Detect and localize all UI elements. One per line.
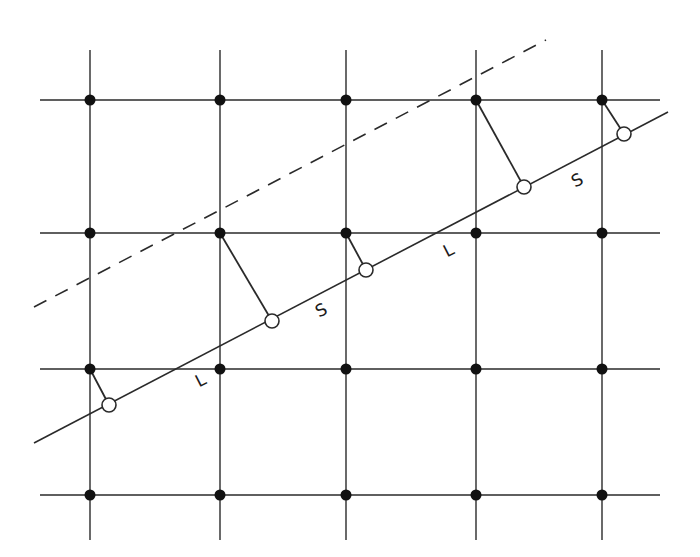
lattice-point [85, 95, 96, 106]
grid-lines [40, 50, 660, 540]
lattice-point [85, 228, 96, 239]
lattice-point [85, 364, 96, 375]
projected-point [102, 398, 116, 412]
lattice-point [597, 364, 608, 375]
lattice-point [215, 490, 226, 501]
projected-point [265, 314, 279, 328]
lattice-point [85, 490, 96, 501]
lattice-point [597, 95, 608, 106]
lattice-point [215, 95, 226, 106]
lattice-point [471, 490, 482, 501]
lattice-point [341, 95, 352, 106]
lattice-point [471, 228, 482, 239]
projected-point [359, 263, 373, 277]
lattice-diagram: L S L S [0, 0, 700, 557]
lattice-point [471, 95, 482, 106]
projected-point [517, 180, 531, 194]
projection-segment [476, 100, 524, 187]
projection-segments [90, 100, 624, 405]
projection-segment [220, 233, 272, 321]
lattice-point [341, 228, 352, 239]
diagram-canvas [0, 0, 700, 557]
lattice-point [341, 490, 352, 501]
lattice-point [341, 364, 352, 375]
lattice-point [215, 364, 226, 375]
lattice-point [597, 228, 608, 239]
dashed-line [34, 40, 546, 307]
projected-point [617, 127, 631, 141]
lattice-point [471, 364, 482, 375]
lattice-point [215, 228, 226, 239]
solid-line [34, 112, 668, 443]
lattice-point [597, 490, 608, 501]
